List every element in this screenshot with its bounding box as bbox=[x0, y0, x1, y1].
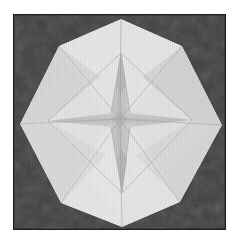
folded-paper-illustration bbox=[14, 15, 225, 229]
photo-frame bbox=[13, 14, 226, 230]
image-canvas: Folded paper octagon Grayscale photograp… bbox=[0, 0, 237, 244]
